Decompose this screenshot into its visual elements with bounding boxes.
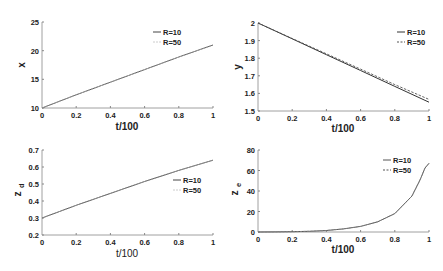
svg-text:0: 0: [40, 111, 44, 120]
svg-text:10: 10: [31, 104, 39, 113]
svg-text:20: 20: [31, 47, 39, 56]
svg-text:0.4: 0.4: [29, 197, 40, 206]
svg-text:0.2: 0.2: [29, 231, 39, 240]
panel-x: 10 15 20 25 0 0.2 0.4 0.6 0.8 1 t/100 x …: [16, 18, 215, 132]
svg-text:1: 1: [427, 114, 431, 123]
svg-text:1.7: 1.7: [245, 72, 255, 81]
svg-text:0.4: 0.4: [105, 111, 116, 120]
svg-text:e: e: [234, 183, 243, 187]
svg-text:0.6: 0.6: [355, 114, 365, 123]
svg-text:0: 0: [256, 114, 260, 123]
y-axis-label: x: [16, 62, 27, 68]
svg-text:0.4: 0.4: [321, 114, 332, 123]
svg-text:R=50: R=50: [163, 38, 181, 47]
svg-text:0.8: 0.8: [390, 235, 400, 244]
svg-text:z: z: [229, 191, 240, 196]
svg-text:1.5: 1.5: [245, 107, 255, 116]
svg-text:2: 2: [251, 19, 255, 28]
svg-text:R=10: R=10: [407, 28, 425, 37]
svg-text:1.8: 1.8: [245, 54, 255, 63]
svg-text:25: 25: [31, 18, 39, 27]
svg-text:0.5: 0.5: [29, 180, 39, 189]
svg-text:1.6: 1.6: [245, 89, 255, 98]
svg-text:0.8: 0.8: [174, 111, 184, 120]
svg-text:0.6: 0.6: [29, 163, 39, 172]
svg-text:80: 80: [247, 146, 255, 155]
svg-text:0.4: 0.4: [321, 235, 332, 244]
legend: R=10 R=50: [153, 28, 181, 47]
y-axis-label: y: [232, 64, 243, 70]
svg-text:R=50: R=50: [393, 166, 411, 175]
svg-text:40: 40: [247, 187, 255, 196]
svg-text:0: 0: [256, 235, 260, 244]
svg-text:15: 15: [31, 75, 39, 84]
svg-text:0.7: 0.7: [29, 146, 39, 155]
svg-text:z: z: [12, 192, 23, 197]
svg-text:0.3: 0.3: [29, 214, 39, 223]
svg-text:0.6: 0.6: [139, 238, 149, 247]
svg-text:0.2: 0.2: [71, 238, 81, 247]
x-axis-label: t/100: [332, 244, 355, 255]
svg-text:0.2: 0.2: [71, 111, 81, 120]
svg-text:0.2: 0.2: [287, 235, 297, 244]
svg-text:R=50: R=50: [183, 186, 201, 195]
svg-text:d: d: [17, 183, 26, 188]
svg-text:0.8: 0.8: [174, 238, 184, 247]
svg-text:0.6: 0.6: [355, 235, 365, 244]
svg-text:60: 60: [247, 167, 255, 176]
svg-text:R=50: R=50: [407, 38, 425, 47]
svg-text:1: 1: [211, 238, 215, 247]
panel-ze: 0 20 40 60 80 0 0.2 0.4 0.6 0.8 1 t/100 …: [229, 146, 431, 255]
svg-text:R=10: R=10: [183, 176, 201, 185]
svg-text:R=10: R=10: [393, 156, 411, 165]
y-axis-label: z d: [12, 183, 26, 197]
x-axis-label: t/100: [332, 123, 355, 134]
legend: R=10 R=50: [383, 156, 411, 175]
figure: 10 15 20 25 0 0.2 0.4 0.6 0.8 1 t/100 x …: [0, 0, 443, 271]
svg-text:0.6: 0.6: [139, 111, 149, 120]
panel-zd: 0.2 0.3 0.4 0.5 0.6 0.7 0 0.2 0.4 0.6 0.…: [12, 146, 215, 259]
svg-text:0.2: 0.2: [287, 114, 297, 123]
panel-y: 1.5 1.6 1.7 1.8 1.9 2 0 0.2 0.4 0.6 0.8 …: [232, 19, 431, 134]
svg-text:20: 20: [247, 208, 255, 217]
svg-text:0: 0: [40, 238, 44, 247]
y-axis-label: z e: [229, 183, 243, 196]
svg-text:1: 1: [427, 235, 431, 244]
x-axis-label: t/100: [116, 121, 139, 132]
series-r10: [42, 45, 213, 108]
svg-text:R=10: R=10: [163, 28, 181, 37]
svg-text:0: 0: [251, 228, 255, 237]
legend: R=10 R=50: [173, 176, 201, 195]
legend: R=10 R=50: [397, 28, 425, 47]
series-r50: [258, 23, 429, 99]
svg-text:1.9: 1.9: [245, 37, 255, 46]
svg-text:0.8: 0.8: [390, 114, 400, 123]
x-axis-label: t/100: [116, 248, 139, 259]
svg-text:0.4: 0.4: [105, 238, 116, 247]
svg-text:1: 1: [211, 111, 215, 120]
